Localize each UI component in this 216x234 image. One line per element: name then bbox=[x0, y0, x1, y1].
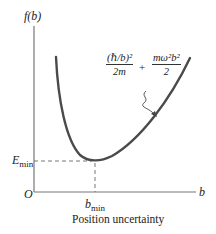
e-min-label: Emin bbox=[12, 154, 33, 169]
origin-label: O bbox=[24, 188, 33, 200]
pointer-arrow bbox=[143, 91, 154, 114]
formula-term1: (ℏ/b)² 2m bbox=[106, 52, 133, 77]
term2-denominator: 2 bbox=[164, 65, 169, 77]
y-axis-label: f(b) bbox=[24, 10, 41, 22]
x-axis-label: b bbox=[199, 186, 205, 198]
b-min-label: bmin bbox=[85, 198, 105, 213]
term1-numerator: (ℏ/b)² bbox=[106, 52, 133, 65]
term1-denominator: 2m bbox=[113, 65, 126, 77]
term2-numerator: mω²b² bbox=[152, 52, 181, 65]
formula-plus: + bbox=[139, 61, 145, 73]
b-min-subscript: min bbox=[91, 203, 105, 213]
formula-term2: mω²b² 2 bbox=[152, 52, 181, 77]
e-min-subscript: min bbox=[19, 159, 33, 169]
x-axis-caption: Position uncertainty bbox=[72, 214, 164, 226]
